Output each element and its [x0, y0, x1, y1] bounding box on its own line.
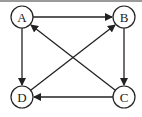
- svg-text:D: D: [17, 90, 26, 105]
- node-b: B: [113, 6, 135, 28]
- graph-diagram: A B C D: [0, 0, 142, 117]
- svg-text:C: C: [120, 90, 129, 105]
- node-d: D: [11, 86, 33, 108]
- svg-text:B: B: [120, 10, 129, 25]
- node-a: A: [11, 6, 33, 28]
- node-c: C: [113, 86, 135, 108]
- svg-text:A: A: [17, 10, 27, 25]
